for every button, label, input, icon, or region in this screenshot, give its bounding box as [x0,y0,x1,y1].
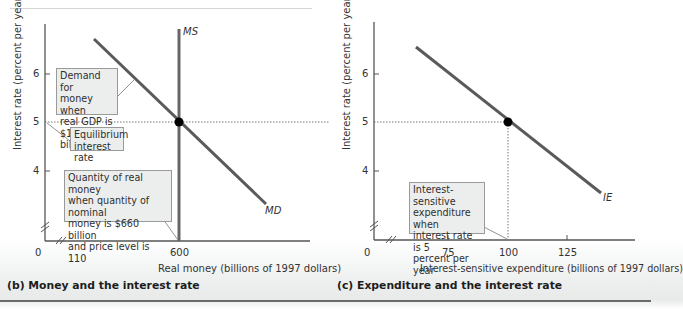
demand-for-money-annotation: Demand for money when real GDP is $1,000… [56,68,118,115]
right-x-tick-125: 125 [558,247,577,258]
quantity-leader-line [163,219,178,240]
left-panel-caption: (b) Money and the interest rate [7,279,200,292]
left-x-zero: 0 [35,247,41,258]
ie-leader-line [484,227,507,239]
left-y-tick-6: 6 [33,68,39,79]
right-panel-caption: (c) Expenditure and the interest rate [337,279,562,292]
ie-annotation: Interest-sensitive expenditure when inte… [409,182,485,234]
left-y-tick-5: 5 [33,116,39,127]
right-y-tick-6: 6 [362,68,368,79]
demand-leader-line [117,80,134,97]
right-x-axis-label: Interest-sensitive expenditure (billions… [420,263,683,274]
right-x-zero: 0 [364,247,370,258]
ms-label: MS [183,26,198,37]
equilibrium-rate-annotation: Equilibrium interest rate [70,127,124,151]
right-x-tick-100: 100 [499,247,518,258]
left-y-tick-4: 4 [33,165,39,176]
ie-label: IE [603,192,612,203]
right-y-tick-4: 4 [362,165,368,176]
md-label: MD [265,205,281,216]
left-x-axis-label: Real money (billions of 1997 dollars) [158,263,341,274]
real-money-quantity-annotation: Quantity of real money when quantity of … [64,170,172,222]
bottom-rule [0,300,651,302]
right-y-axis-label: Interest rate (percent per year) [341,0,352,150]
right-equilibrium-point [504,118,513,127]
left-x-tick-600: 600 [170,247,189,258]
left-equilibrium-point [175,118,184,127]
left-y-axis-label: Interest rate (percent per year) [12,0,23,150]
right-y-tick-5: 5 [362,116,368,127]
